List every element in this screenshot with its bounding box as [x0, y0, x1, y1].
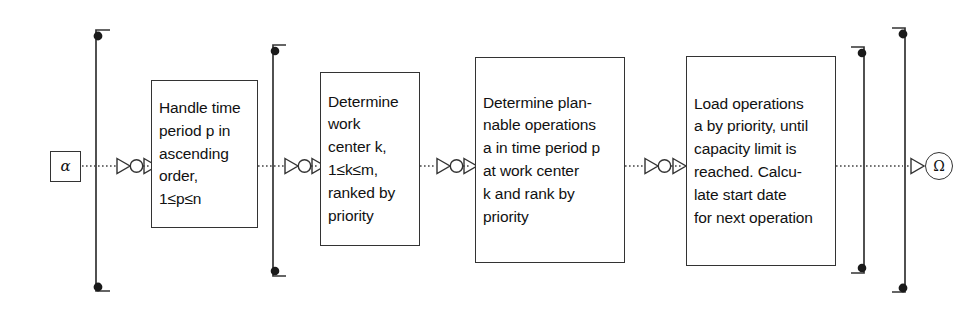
connector-circle	[658, 160, 670, 172]
alpha-symbol: α	[60, 159, 70, 174]
connector-arrowhead	[911, 159, 924, 174]
loop-rail-dot	[94, 283, 103, 292]
loop-rail-dot	[899, 284, 908, 293]
connector-2-3	[420, 159, 477, 174]
connector-1-2	[258, 159, 325, 174]
loop-rail-outer-left	[94, 30, 110, 291]
loop-rail-inner-right	[851, 47, 866, 273]
start-terminal[interactable]: α	[50, 151, 81, 182]
loop-rail-inner-left	[271, 45, 286, 276]
loop-rail-dot	[858, 49, 867, 58]
process-step-3[interactable]: Determine plan- nable operations a in ti…	[475, 57, 625, 263]
process-step-2-label: Determine work center k, 1≤k≤m, ranked b…	[321, 91, 402, 228]
process-step-3-label: Determine plan- nable operations a in ti…	[476, 92, 603, 229]
loop-rail-dot	[271, 267, 280, 276]
connector-arrowhead	[285, 159, 298, 174]
loop-rail-dot	[94, 32, 103, 41]
connector-end	[836, 159, 924, 174]
loop-rail-dot	[858, 264, 867, 273]
process-step-4[interactable]: Load operations a by priority, until cap…	[686, 56, 836, 266]
process-step-2[interactable]: Determine work center k, 1≤k≤m, ranked b…	[320, 72, 420, 246]
connector-start	[82, 159, 157, 174]
process-step-1-label: Handle time period p in ascending order,…	[152, 97, 244, 211]
process-step-1[interactable]: Handle time period p in ascending order,…	[151, 80, 258, 228]
process-step-4-label: Load operations a by priority, until cap…	[687, 93, 816, 230]
end-terminal[interactable]: Ω	[925, 152, 953, 180]
connector-3-4	[625, 159, 686, 174]
connector-circle	[130, 160, 142, 172]
connector-circle	[450, 160, 462, 172]
loop-rail-dot	[899, 30, 908, 39]
loop-rail-outer-right	[892, 28, 907, 292]
connector-circle	[298, 160, 310, 172]
loop-rail-dot	[271, 47, 280, 56]
process-flow-diagram: α Handle time period p in ascending orde…	[0, 0, 971, 316]
omega-symbol: Ω	[933, 159, 945, 173]
connector-arrowhead	[117, 159, 130, 174]
connector-arrowhead	[645, 159, 658, 174]
connector-arrowhead	[437, 159, 450, 174]
